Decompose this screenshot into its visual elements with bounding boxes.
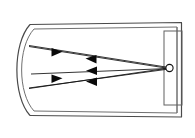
arrowheads-leftward: [86, 55, 98, 86]
light-source-group: [166, 64, 173, 71]
arrowhead-right-upper: [52, 48, 63, 57]
light-source-point: [166, 64, 173, 71]
figure-canvas: [0, 0, 195, 138]
incident-ray-upper: [29, 46, 169, 68]
reflector-inner-arc: [22, 29, 34, 111]
ray-bundle: [29, 46, 169, 89]
reflected-ray-upper: [29, 47, 169, 69]
arrowhead-left-lower: [86, 78, 97, 87]
ray-diagram-svg: [0, 0, 195, 138]
arrowhead-right-lower: [52, 75, 63, 84]
arrowhead-left-middle: [86, 67, 97, 76]
arrowheads-rightward: [52, 48, 63, 83]
parabolic-reflector-group: [17, 25, 34, 116]
